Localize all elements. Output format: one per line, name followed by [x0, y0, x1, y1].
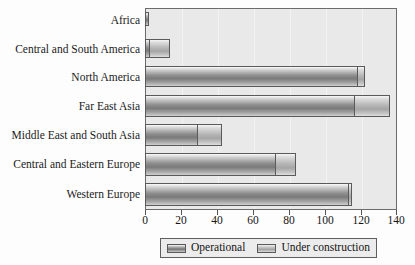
bar-series-group — [145, 8, 397, 210]
segment-operational-far-east-asia[interactable] — [145, 95, 354, 117]
x-axis-tick-label-20: 20 — [175, 215, 187, 227]
segment-under-construction-central-and-south-america[interactable] — [149, 39, 171, 58]
x-axis-tick-label-140: 140 — [387, 215, 404, 227]
x-axis-tick-label-100: 100 — [316, 215, 333, 227]
under-construction-swatch — [257, 244, 276, 253]
x-axis-tick-label-80: 80 — [283, 215, 295, 227]
x-axis-tick-label-60: 60 — [247, 215, 259, 227]
stacked-bar-central-and-south-america[interactable] — [145, 39, 170, 58]
y-axis-label-middle-east-and-south-asia: Middle East and South Asia — [0, 130, 140, 142]
bar-row-central-and-eastern-europe — [145, 153, 397, 176]
y-axis-label-far-east-asia: Far East Asia — [0, 101, 140, 113]
legend-entry-operational[interactable]: Operational — [167, 242, 245, 254]
stacked-bar-africa[interactable] — [145, 12, 149, 26]
bar-row-middle-east-and-south-asia — [145, 124, 397, 146]
bar-row-north-america — [145, 66, 397, 87]
y-axis-label-africa: Africa — [0, 15, 140, 27]
legend-label-under-construction: Under construction — [281, 242, 369, 254]
stacked-bar-far-east-asia[interactable] — [145, 95, 390, 117]
x-axis-tick-label-120: 120 — [352, 215, 369, 227]
bar-row-africa — [145, 12, 397, 26]
x-axis-tick-label-0: 0 — [142, 215, 148, 227]
stacked-bar-north-america[interactable] — [145, 66, 365, 87]
stacked-bar-middle-east-and-south-asia[interactable] — [145, 124, 222, 146]
segment-operational-africa[interactable] — [145, 12, 149, 26]
segment-operational-middle-east-and-south-asia[interactable] — [145, 124, 197, 146]
x-axis-tick-labels: 0 20 40 60 80 100 120 140 — [145, 215, 397, 231]
bar-row-western-europe — [145, 183, 397, 206]
legend-label-operational: Operational — [191, 242, 245, 254]
bar-chart: Africa Central and South America North A… — [0, 0, 415, 265]
segment-under-construction-north-america[interactable] — [357, 66, 364, 87]
stacked-bar-central-and-eastern-europe[interactable] — [145, 153, 296, 176]
stacked-bar-western-europe[interactable] — [145, 183, 352, 206]
legend: Operational Under construction — [160, 238, 377, 258]
segment-operational-central-and-eastern-europe[interactable] — [145, 153, 275, 176]
y-axis-labels: Africa Central and South America North A… — [0, 8, 140, 210]
segment-under-construction-middle-east-and-south-asia[interactable] — [197, 124, 222, 146]
bar-row-far-east-asia — [145, 95, 397, 117]
segment-operational-western-europe[interactable] — [145, 183, 348, 206]
y-axis-label-north-america: North America — [0, 72, 140, 84]
x-axis-tick-label-40: 40 — [211, 215, 223, 227]
y-axis-label-central-and-eastern-europe: Central and Eastern Europe — [0, 159, 140, 171]
segment-under-construction-far-east-asia[interactable] — [354, 95, 390, 117]
segment-under-construction-western-europe[interactable] — [348, 183, 352, 206]
operational-swatch — [167, 244, 186, 253]
segment-operational-north-america[interactable] — [145, 66, 357, 87]
y-axis-label-western-europe: Western Europe — [0, 189, 140, 201]
legend-entry-under-construction[interactable]: Under construction — [257, 242, 369, 254]
bar-row-central-and-south-america — [145, 39, 397, 58]
segment-under-construction-central-and-eastern-europe[interactable] — [275, 153, 297, 176]
y-axis-label-central-and-south-america: Central and South America — [0, 44, 140, 56]
